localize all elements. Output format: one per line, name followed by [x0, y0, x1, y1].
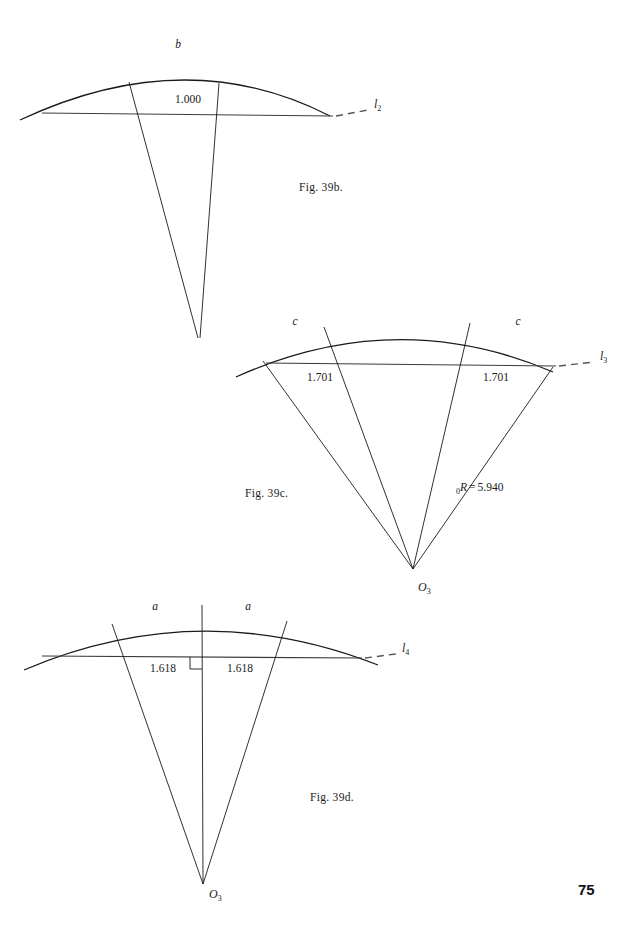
- figure-39b: b 1.000 l2 O3: [0, 20, 420, 350]
- caption-fig-39c: Fig. 39c.: [245, 487, 288, 499]
- chord-value-1618-right: 1.618: [227, 662, 253, 674]
- radial-line-right-39b: [200, 83, 219, 338]
- segment-label-c-right: c: [515, 315, 520, 327]
- radial-line-1-39c: [263, 361, 413, 569]
- caption-fig-39b: Fig. 39b.: [299, 181, 343, 193]
- figure-39d: a a 1.618 1.618 l4 O3: [0, 585, 420, 910]
- segment-label-b: b: [175, 38, 181, 50]
- right-angle-marker-39d: [190, 657, 202, 669]
- caption-fig-39d: Fig. 39d.: [310, 791, 354, 803]
- vertex-label-o3-39d: O3: [209, 887, 222, 903]
- page-number: 75: [578, 881, 595, 898]
- radial-line-left-39b: [129, 82, 198, 338]
- baseline-label-l4: l4: [402, 641, 409, 657]
- document-page: b 1.000 l2 O3 Fig. 39b. c c 1.701 1.701 …: [0, 0, 642, 935]
- figure-39c: c c 1.701 1.701 l3 0R=5.940 O3: [228, 305, 642, 600]
- chord-line-39c: [266, 363, 556, 366]
- baseline-label-l2: l2: [374, 97, 381, 113]
- radial-line-right-39d: [203, 621, 287, 884]
- chord-value-1701-right: 1.701: [483, 371, 509, 383]
- arc-39d: [24, 631, 378, 670]
- radial-line-3-39c: [413, 323, 470, 569]
- radial-line-2-39c: [324, 327, 413, 569]
- baseline-label-l3: l3: [600, 349, 607, 365]
- chord-value-1618-left: 1.618: [150, 662, 176, 674]
- radial-line-4-39c: [413, 367, 553, 569]
- dashed-extension-39b: [336, 110, 368, 116]
- dashed-extension-39c: [559, 362, 594, 366]
- segment-label-a-right: a: [245, 600, 251, 612]
- chord-line-39b: [42, 113, 333, 116]
- vertex-label-o3-39b: O3: [190, 348, 203, 350]
- radius-annotation-39c: 0R=5.940: [456, 481, 504, 496]
- segment-label-a-left: a: [152, 600, 158, 612]
- center-axis-39d: [202, 605, 203, 884]
- dashed-extension-39d: [365, 654, 396, 658]
- chord-value-1000: 1.000: [175, 93, 201, 105]
- segment-label-c-left: c: [292, 315, 297, 327]
- chord-value-1701-left: 1.701: [307, 371, 333, 383]
